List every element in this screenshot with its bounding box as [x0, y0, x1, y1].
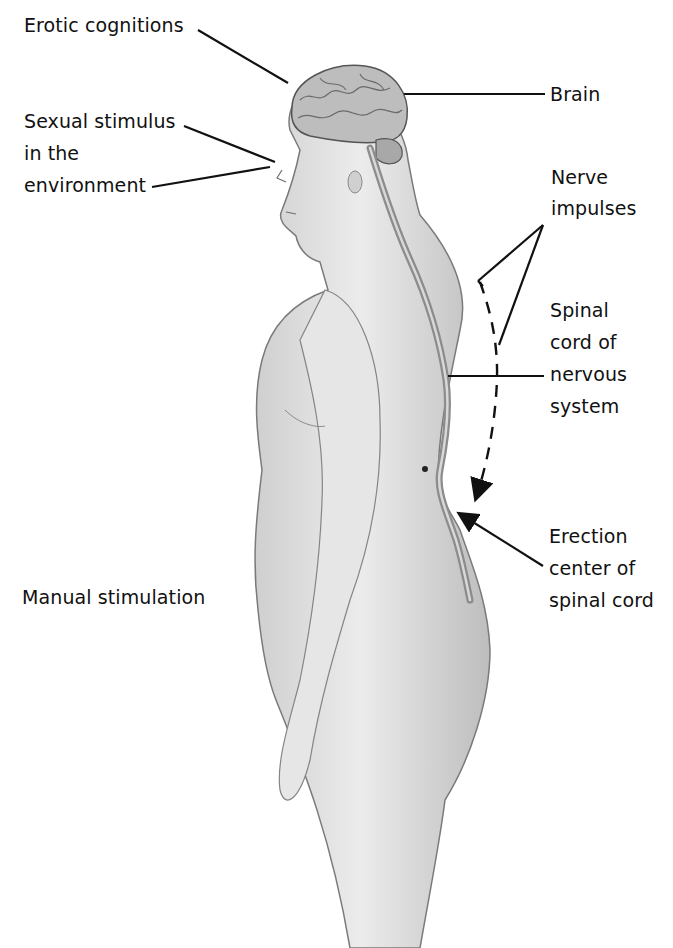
arrow-erection-center	[460, 514, 543, 566]
label-manual-stimulation: Manual stimulation	[22, 584, 205, 611]
figure-illustration	[0, 0, 673, 948]
anatomical-diagram: Erotic cognitions Sexual stimulus in the…	[0, 0, 673, 948]
leader-sexual-stimulus-upper	[184, 126, 275, 162]
label-sexual-stimulus-line3: environment	[24, 172, 146, 199]
label-spinal-line4: system	[550, 393, 619, 420]
nerve-impulse-path-arrow	[476, 282, 497, 498]
label-erection-line3: spinal cord	[549, 587, 654, 614]
label-spinal-line2: cord of	[550, 329, 617, 356]
label-sexual-stimulus-line1: Sexual stimulus	[24, 108, 176, 135]
label-spinal-line1: Spinal	[550, 297, 609, 324]
label-erection-line2: center of	[549, 555, 635, 582]
leader-sexual-stimulus-lower	[152, 167, 270, 187]
label-nerve-line1: Nerve	[551, 164, 608, 191]
label-nerve-line2: impulses	[551, 195, 636, 222]
label-erotic-cognitions: Erotic cognitions	[24, 12, 184, 39]
body-silhouette	[255, 80, 490, 948]
erection-center-dot	[422, 466, 428, 472]
leader-erotic-cognitions	[198, 30, 288, 83]
label-spinal-line3: nervous	[550, 361, 627, 388]
label-brain: Brain	[550, 81, 600, 108]
label-erection-line1: Erection	[549, 523, 628, 550]
label-sexual-stimulus-line2: in the	[24, 140, 79, 167]
